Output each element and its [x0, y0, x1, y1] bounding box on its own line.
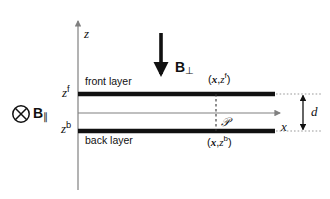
b-par-base: B — [33, 105, 43, 121]
b-perp-subscript: ⊥ — [185, 65, 194, 76]
figure-canvas — [0, 0, 330, 199]
b-perp-base: B — [175, 59, 185, 75]
back-layer-name: back layer — [85, 135, 133, 146]
x-axis-label: x — [281, 120, 287, 133]
back-level-superscript: b — [66, 120, 71, 130]
front-layer-level-label: zf — [62, 85, 70, 99]
back-point-close-paren: ) — [228, 136, 232, 148]
front-point-close-paren: ) — [227, 73, 231, 85]
back-point-coordinates: (x,zb) — [207, 135, 232, 148]
front-layer-name: front layer — [85, 76, 132, 87]
probe-point-label: 𝒫 — [221, 116, 230, 128]
b-par-subscript: ∥ — [43, 111, 48, 122]
bilayer-geometry-figure: z x zf zb front layer back layer B⊥ B∥ (… — [0, 0, 330, 199]
front-level-superscript: f — [67, 84, 70, 94]
b-parallel-label: B∥ — [33, 106, 48, 122]
back-layer-level-label: zb — [61, 121, 71, 135]
front-point-coordinates: (x,zf) — [208, 72, 230, 85]
b-perpendicular-label: B⊥ — [175, 60, 194, 76]
circle-cross-into-page-icon — [13, 106, 29, 122]
separation-label: d — [311, 105, 318, 118]
z-axis-label: z — [84, 27, 89, 40]
